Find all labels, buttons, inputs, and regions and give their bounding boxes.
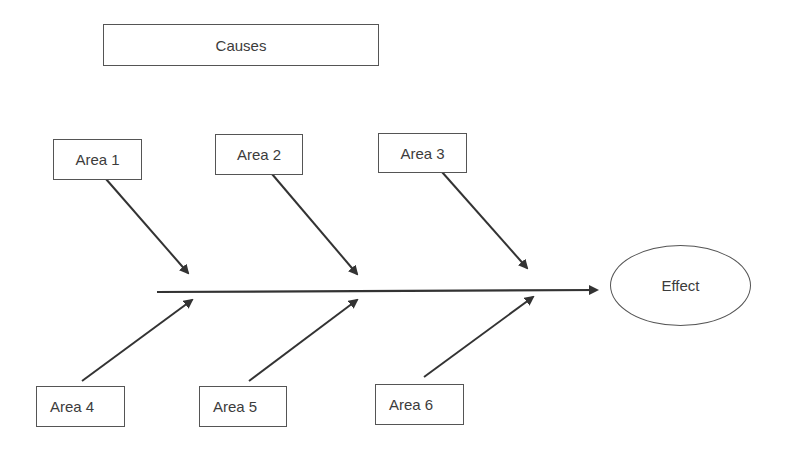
bone-arrow-area-3 <box>442 172 527 268</box>
bone-arrow-area-2 <box>272 174 357 274</box>
spine-arrow <box>157 290 597 292</box>
cause-box-area-4: Area 4 <box>36 386 125 427</box>
effect-ellipse: Effect <box>610 245 751 326</box>
causes-header-box: Causes <box>103 24 379 66</box>
bone-arrow-area-5 <box>249 300 357 381</box>
bone-arrow-area-6 <box>424 297 533 377</box>
cause-box-area-5: Area 5 <box>199 386 287 427</box>
cause-box-area-1: Area 1 <box>53 139 142 180</box>
cause-box-area-6: Area 6 <box>375 384 464 425</box>
cause-box-area-2: Area 2 <box>215 134 303 175</box>
cause-box-area-3: Area 3 <box>378 133 467 173</box>
bone-arrow-area-1 <box>106 179 188 273</box>
bone-arrow-area-4 <box>82 300 192 381</box>
